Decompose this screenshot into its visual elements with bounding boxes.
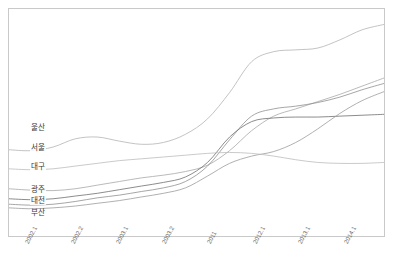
- series-label-busan: 부산: [30, 209, 46, 217]
- plot-area: [8, 8, 385, 237]
- series-line-daegu: [9, 83, 384, 205]
- series-label-seoul: 서울: [30, 144, 46, 152]
- series-line-seoul: [9, 24, 384, 150]
- series-label-ulsan: 울산: [30, 124, 46, 132]
- series-label-gwangju: 광주: [30, 186, 46, 194]
- series-label-daegu: 대구: [30, 163, 46, 171]
- line-chart: 90.0 85.0 80.0 75.0 70.0 65.0 60.0 55.0 …: [0, 0, 396, 263]
- series-line-gwangju: [9, 114, 384, 199]
- series-label-daejeon: 대전: [30, 197, 46, 205]
- series-canvas: [9, 9, 384, 236]
- series-line-ulsan: [9, 78, 384, 191]
- series-line-daejeon: [9, 92, 384, 209]
- series-line-busan: [9, 152, 384, 169]
